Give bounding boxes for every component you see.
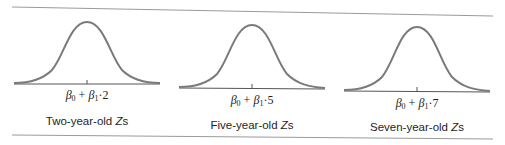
age-value: 7 [432,96,438,110]
distribution-seven-year-old [344,27,490,92]
beta0-subscript: 0 [402,102,406,111]
bottom-rule [12,135,493,139]
axis-line [344,91,490,92]
caption-suffix: s [288,119,294,131]
caption-suffix: s [458,121,464,133]
caption-text: Two-year-old [46,115,116,127]
bell-curve [14,22,160,83]
caption-suffix: s [122,115,128,127]
distribution-five-year-old [179,25,325,89]
mean-formula-seven: β0 + β1·7 [396,96,439,111]
bell-curve [344,27,490,91]
plus-sign: + [409,96,416,110]
caption-two-year-old: Two-year-old Zs [46,115,128,127]
plus-sign: + [79,88,86,102]
mean-formula-two: β0 + β1·2 [66,88,109,103]
caption-variable: Z [115,115,122,127]
axis-line [179,88,325,89]
age-value: 5 [267,93,273,107]
plus-sign: + [244,93,251,107]
age-value: 2 [102,88,108,102]
caption-text: Seven-year-old [370,121,451,133]
distribution-two-year-old [14,22,160,84]
beta0-subscript: 0 [237,99,241,108]
bell-curve [179,25,325,88]
caption-five-year-old: Five-year-old Zs [210,119,293,131]
mean-formula-five: β0 + β1·5 [231,93,274,108]
caption-seven-year-old: Seven-year-old Zs [370,121,464,133]
top-rule [12,7,493,16]
beta0-subscript: 0 [72,94,76,103]
caption-text: Five-year-old [210,119,280,131]
